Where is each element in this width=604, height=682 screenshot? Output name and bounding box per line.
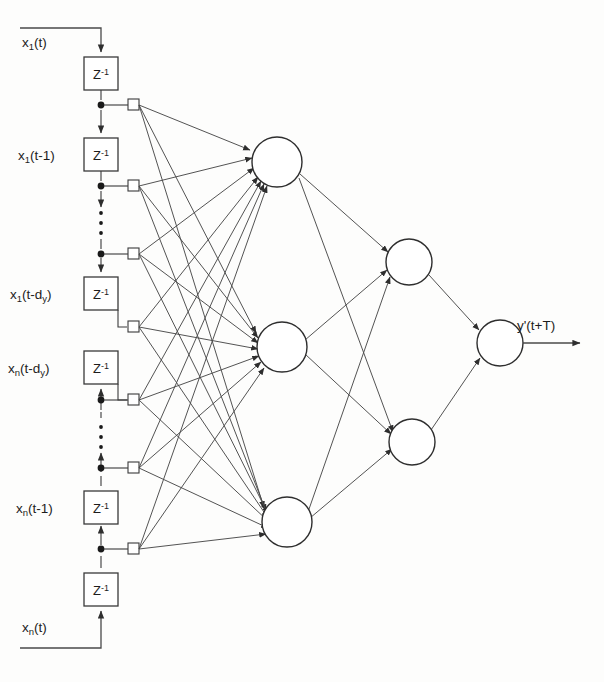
synapses-hidden2-to-output	[429, 275, 480, 430]
label-delay1-bottom: xn(t-1)	[16, 501, 53, 518]
neuron-h5	[389, 419, 435, 465]
lower-chain-ellipsis	[99, 425, 103, 449]
synapses-hidden1-to-hidden2	[299, 174, 393, 518]
weight-node	[128, 180, 139, 191]
tap-dot	[98, 102, 105, 109]
weight-node	[128, 248, 139, 259]
tap-dot	[98, 183, 105, 190]
label-input-bottom: xn(t)	[22, 620, 47, 637]
hidden-layer-2	[386, 239, 435, 465]
neuron-h2	[257, 322, 307, 372]
tdnn-diagram: Z-1 Z-1 Z-1 Z-1	[0, 0, 604, 682]
label-delay-dy-bottom: xn(t-dy)	[8, 361, 50, 378]
weight-node	[128, 462, 139, 473]
weight-nodes	[128, 99, 139, 554]
weight-node	[128, 321, 139, 332]
label-output: y'(t+T)	[517, 318, 555, 333]
neuron-h4	[386, 239, 432, 285]
hidden-layer-1	[252, 137, 312, 547]
neuron-h1	[252, 137, 302, 187]
label-input-top: x1(t)	[22, 35, 47, 52]
weight-node	[128, 99, 139, 110]
lower-delay-chain: Z-1 Z-1 Z-1	[20, 351, 127, 648]
label-delay1-top: x1(t-1)	[18, 148, 55, 165]
synapses-input-to-hidden1	[139, 105, 269, 549]
tap-dot	[98, 546, 105, 553]
label-delay-dy-top: x1(t-dy)	[10, 287, 52, 304]
upper-delay-chain: Z-1 Z-1 Z-1	[84, 57, 127, 327]
tap-dot	[98, 465, 105, 472]
weight-node	[128, 394, 139, 405]
network-svg: Z-1 Z-1 Z-1 Z-1	[0, 0, 604, 682]
upper-chain-ellipsis	[99, 211, 103, 235]
tap-dot	[98, 397, 105, 404]
neuron-h3	[262, 497, 312, 547]
weight-node	[128, 543, 139, 554]
tap-dot	[98, 251, 105, 258]
